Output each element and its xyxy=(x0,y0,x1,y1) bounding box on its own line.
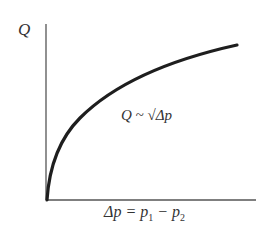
x-label-minus: − p xyxy=(153,203,180,220)
y-axis-label: Q xyxy=(18,20,30,40)
x-label-delta: Δp = p xyxy=(104,203,148,220)
formula-q: Q xyxy=(121,107,132,123)
x-axis-label: Δp = p1 − p2 xyxy=(104,203,185,223)
x-label-sub2: 2 xyxy=(180,212,185,223)
curve-annotation: Q ~ √Δp xyxy=(121,107,172,124)
formula-rest: ~ √Δp xyxy=(136,107,172,123)
